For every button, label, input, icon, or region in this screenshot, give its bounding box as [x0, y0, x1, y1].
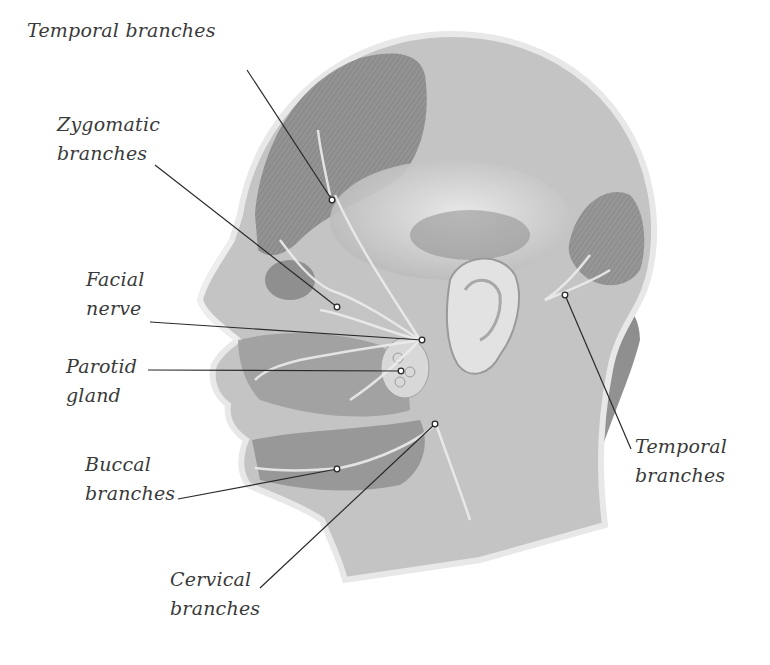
anchor-cervical [432, 421, 438, 427]
label-line: Parotid [66, 352, 137, 381]
head-illustration [0, 0, 770, 665]
label-facial-nerve: Facial nerve [86, 265, 145, 323]
label-line: branches [170, 594, 260, 623]
temporal-fascia [330, 160, 570, 280]
label-line: Zygomatic [57, 110, 160, 139]
anchor-zygomatic [334, 304, 340, 310]
label-line: nerve [86, 294, 145, 323]
label-line: gland [66, 381, 137, 410]
label-cervical-branches: Cervical branches [170, 565, 260, 623]
anchor-parotid [398, 368, 404, 374]
label-buccal-branches: Buccal branches [85, 450, 175, 508]
head-outline [200, 34, 654, 580]
label-parotid-gland: Parotid gland [66, 352, 137, 410]
facial-nerve-diagram: Temporal branches Zygomatic branches Fac… [0, 0, 770, 665]
label-line: branches [57, 139, 160, 168]
label-zygomatic-branches: Zygomatic branches [57, 110, 160, 168]
parotid-gland [381, 338, 429, 398]
label-line: Buccal [85, 450, 175, 479]
label-line: Temporal branches [27, 16, 216, 45]
anchor-facial-nerve [419, 337, 425, 343]
anchor-buccal [334, 466, 340, 472]
label-line: Temporal [635, 432, 727, 461]
label-temporal-branches-upper: Temporal branches [27, 16, 216, 45]
anchor-temporal-lower [562, 292, 568, 298]
label-line: Cervical [170, 565, 260, 594]
label-temporal-branches-lower: Temporal branches [635, 432, 727, 490]
label-line: branches [85, 479, 175, 508]
label-line: branches [635, 461, 727, 490]
label-line: Facial [86, 265, 145, 294]
anchor-temporal-upper [329, 197, 335, 203]
